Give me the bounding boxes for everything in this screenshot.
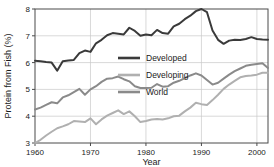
legend-label-developed: Developed — [146, 53, 187, 63]
x-tick-label: 1970 — [82, 148, 100, 157]
y-tick-label: 7 — [26, 32, 31, 41]
x-tick-label: 1960 — [26, 148, 44, 157]
legend-label-world: World — [146, 87, 168, 97]
x-tick-label: 1990 — [193, 148, 211, 157]
x-tick-label: 2000 — [248, 148, 266, 157]
y-tick-label: 8 — [26, 5, 31, 14]
chart-canvas: 34567819601970198019902000YearProtein fr… — [0, 0, 274, 167]
y-tick-label: 6 — [26, 59, 31, 68]
x-tick-label: 1980 — [137, 148, 155, 157]
y-tick-label: 3 — [26, 139, 31, 148]
fish-protein-line-chart: 34567819601970198019902000YearProtein fr… — [0, 0, 274, 167]
x-axis-title: Year — [142, 157, 160, 167]
series-line-developing — [35, 73, 268, 143]
y-axis-title: Protein from Fish (%) — [3, 33, 13, 118]
y-tick-label: 5 — [26, 85, 31, 94]
y-tick-label: 4 — [26, 112, 31, 121]
legend-label-developing: Developing — [146, 70, 189, 80]
